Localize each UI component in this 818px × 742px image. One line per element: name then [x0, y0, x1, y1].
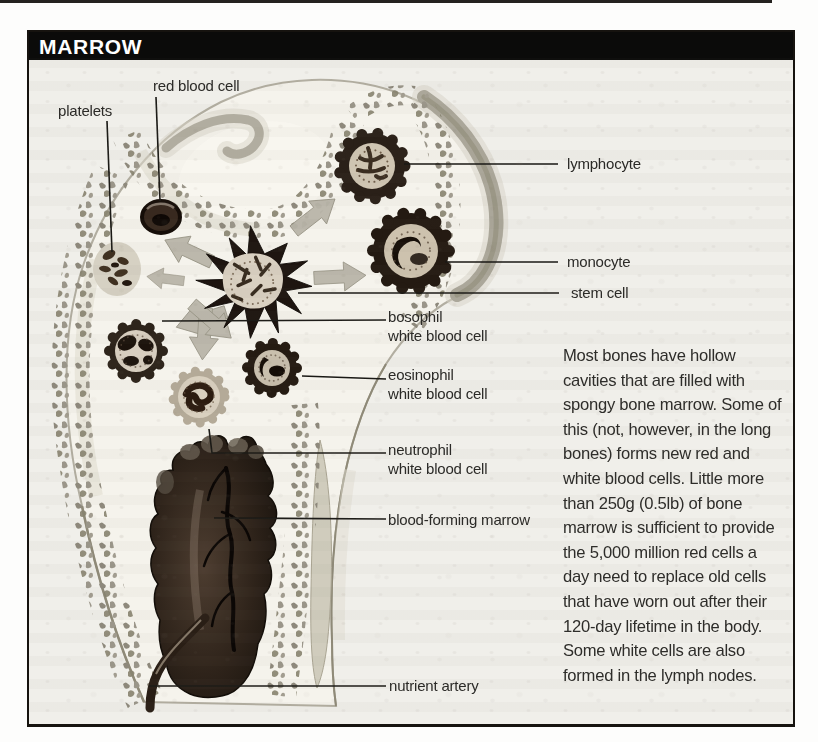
label-neutrophil-line1: neutrophil [388, 441, 487, 460]
body-text-line: white blood cells. Little more [563, 467, 781, 492]
label-blood-forming-marrow: blood-forming marrow [388, 511, 530, 530]
body-text-line: day need to replace old cells [563, 565, 781, 590]
body-text-line: than 250g (0.5lb) of bone [563, 492, 781, 517]
label-neutrophil-line2: white blood cell [388, 460, 487, 479]
body-text-line: bones) forms new red and [563, 442, 781, 467]
panel-title-bar: MARROW [29, 32, 793, 60]
label-basophil-line2: white blood cell [388, 327, 487, 346]
label-monocyte: monocyte [567, 253, 630, 272]
panel-title: MARROW [29, 32, 793, 59]
label-basophil-line1: bosophil [388, 308, 487, 327]
body-text-line: that have worn out after their [563, 590, 781, 615]
label-stem-cell: stem cell [571, 284, 628, 303]
body-text-line: 120-day lifetime in the body. [563, 615, 781, 640]
label-neutrophil: neutrophil white blood cell [388, 441, 487, 478]
label-eosinophil-line2: white blood cell [388, 385, 487, 404]
label-platelets: platelets [58, 102, 112, 121]
page-top-rule [0, 0, 772, 3]
body-text-line: cavities that are filled with [563, 369, 781, 394]
body-text-line: formed in the lymph nodes. [563, 664, 781, 689]
label-eosinophil-line1: eosinophil [388, 366, 487, 385]
body-text-line: spongy bone marrow. Some of [563, 393, 781, 418]
label-red-blood-cell: red blood cell [153, 77, 239, 96]
body-text-line: this (not, however, in the long [563, 418, 781, 443]
body-text-line: Most bones have hollow [563, 344, 781, 369]
label-lymphocyte: lymphocyte [567, 155, 641, 174]
body-text-line: the 5,000 million red cells a [563, 541, 781, 566]
label-basophil: bosophil white blood cell [388, 308, 487, 345]
body-text-line: marrow is sufficient to provide [563, 516, 781, 541]
body-text: Most bones have hollow cavities that are… [563, 344, 781, 688]
label-eosinophil: eosinophil white blood cell [388, 366, 487, 403]
page: MARROW [0, 0, 818, 742]
body-text-line: Some white cells are also [563, 639, 781, 664]
label-nutrient-artery: nutrient artery [389, 677, 479, 696]
